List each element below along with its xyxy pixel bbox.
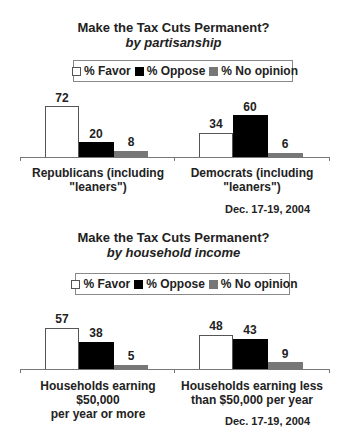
- x-axis: [20, 369, 330, 370]
- value-label: 43: [233, 323, 267, 337]
- favor-swatch-icon: [72, 67, 81, 76]
- category-label-democrats: Democrats (including "leaners"): [172, 166, 332, 194]
- legend-label-favor: % Favor: [83, 277, 130, 291]
- bar-favor-high-income: [45, 328, 79, 369]
- value-label: 8: [114, 135, 148, 149]
- category-label-low-income: Households earning less than $50,000 per…: [172, 379, 332, 407]
- axis-tick: [174, 369, 175, 373]
- legend-item-no-opinion: % No opinion: [205, 64, 298, 78]
- value-label: 9: [268, 347, 302, 361]
- bar-favor-republicans: [45, 106, 79, 157]
- label-line: Households earning less: [172, 379, 332, 393]
- legend-item-favor: % Favor: [67, 277, 130, 291]
- bar-oppose-republicans: [79, 142, 114, 157]
- label-line: Households earning $50,000: [18, 379, 178, 407]
- axis-tick: [174, 157, 175, 161]
- oppose-swatch-icon: [134, 280, 143, 289]
- bar-no-opinion-low-income: [268, 362, 303, 369]
- bar-oppose-low-income: [233, 339, 268, 369]
- value-label: 72: [45, 91, 79, 105]
- chart-title: Make the Tax Cuts Permanent?: [0, 230, 347, 245]
- category-label-high-income: Households earning $50,000 per year or m…: [18, 379, 178, 421]
- no-opinion-swatch-icon: [209, 67, 218, 76]
- no-opinion-swatch-icon: [209, 280, 218, 289]
- value-label: 60: [233, 100, 267, 114]
- legend-item-oppose: % Oppose: [131, 64, 206, 78]
- value-label: 6: [268, 137, 302, 151]
- bar-oppose-high-income: [79, 342, 114, 369]
- axis-tick: [20, 157, 21, 161]
- label-line: "leaners"): [18, 180, 178, 194]
- legend-label-oppose: % Oppose: [147, 64, 206, 78]
- value-label: 20: [79, 127, 113, 141]
- value-label: 34: [199, 117, 233, 131]
- bar-favor-low-income: [199, 335, 233, 369]
- chart-subtitle: by household income: [0, 245, 347, 260]
- value-label: 48: [199, 319, 233, 333]
- legend: % Favor % Oppose % No opinion: [73, 60, 293, 82]
- oppose-swatch-icon: [135, 67, 144, 76]
- axis-tick: [329, 157, 330, 161]
- value-label: 5: [114, 349, 148, 363]
- favor-swatch-icon: [71, 280, 80, 289]
- chart-title: Make the Tax Cuts Permanent?: [0, 20, 347, 35]
- label-line: than $50,000 per year: [172, 393, 332, 407]
- legend-label-favor: % Favor: [84, 64, 131, 78]
- label-line: "leaners"): [172, 180, 332, 194]
- value-label: 57: [45, 312, 79, 326]
- label-line: per year or more: [18, 407, 178, 421]
- axis-tick: [329, 369, 330, 373]
- chart-subtitle: by partisanship: [0, 35, 347, 50]
- bar-favor-democrats: [199, 133, 233, 157]
- label-line: Democrats (including: [172, 166, 332, 180]
- legend-label-no-opinion: % No opinion: [221, 277, 298, 291]
- label-line: Republicans (including: [18, 166, 178, 180]
- legend-item-oppose: % Oppose: [130, 277, 205, 291]
- axis-tick: [20, 369, 21, 373]
- x-axis: [20, 157, 330, 158]
- legend-label-oppose: % Oppose: [146, 277, 205, 291]
- legend-label-no-opinion: % No opinion: [221, 64, 298, 78]
- category-label-republicans: Republicans (including "leaners"): [18, 166, 178, 194]
- value-label: 38: [79, 326, 113, 340]
- legend: % Favor % Oppose % No opinion: [75, 273, 290, 295]
- bar-oppose-democrats: [233, 115, 268, 157]
- legend-item-no-opinion: % No opinion: [205, 277, 298, 291]
- legend-item-favor: % Favor: [68, 64, 131, 78]
- date-note: Dec. 17-19, 2004: [225, 415, 310, 427]
- date-note: Dec. 17-19, 2004: [225, 203, 310, 215]
